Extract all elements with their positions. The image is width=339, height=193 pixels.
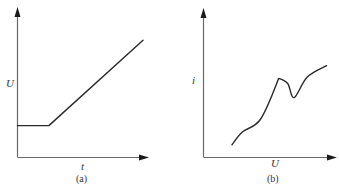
curve-b (232, 66, 327, 145)
y-axis-arrow-a (15, 7, 21, 17)
panel-b: i U (b) (192, 8, 337, 185)
x-axis-arrow-a (139, 155, 149, 161)
xlabel-a: t (81, 160, 85, 172)
xlabel-b: U (271, 157, 280, 169)
caption-b: (b) (267, 173, 279, 185)
ylabel-a: U (6, 77, 15, 89)
panel-a: U t (a) (6, 7, 149, 185)
x-axis-arrow-b (327, 155, 337, 161)
y-axis-arrow-b (201, 8, 207, 18)
caption-a: (a) (76, 173, 87, 185)
figure: U t (a) i U (b) (0, 0, 339, 193)
ylabel-b: i (192, 74, 195, 86)
curve-a (18, 40, 144, 125)
